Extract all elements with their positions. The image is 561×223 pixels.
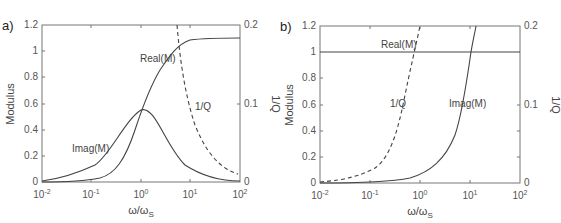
y-tick-right: 0.2: [524, 20, 538, 31]
annotation-imag-m: Imag(M): [72, 143, 109, 154]
figure: a) 0 0.2 0.4 0.6 0.8 1 1.2 0 0.1 0.2 Mod…: [0, 0, 561, 223]
annotation-real-m: Real(M): [140, 53, 176, 64]
y-axis-label-right: 1/Q: [550, 96, 561, 114]
x-tick: 100: [412, 189, 427, 201]
y-tick: 0.2: [302, 151, 316, 162]
annotation-inverse-q: 1/Q: [390, 98, 406, 109]
annotation-inverse-q: 1/Q: [195, 101, 211, 112]
y-tick-right: 0.1: [524, 99, 538, 110]
y-tick: 0.4: [24, 124, 38, 135]
y-tick: 0: [310, 177, 316, 188]
x-tick: 102: [232, 188, 247, 200]
y-tick: 0.8: [24, 71, 38, 82]
panel-label: a): [2, 18, 14, 33]
y-tick: 1: [310, 46, 316, 57]
y-tick: 0.6: [302, 99, 316, 110]
panel-a: a) 0 0.2 0.4 0.6 0.8 1 1.2 0 0.1 0.2 Mod…: [2, 18, 282, 219]
inverse-q-curve: [177, 25, 238, 174]
y-tick: 1.2: [302, 20, 316, 31]
panel-label: b): [280, 19, 292, 34]
y-axis-label-right: 1/Q: [270, 95, 282, 113]
y-tick: 1.2: [24, 19, 38, 30]
y-tick: 0.6: [24, 98, 38, 109]
y-tick-right: 0.2: [244, 19, 258, 30]
y-tick: 1: [32, 45, 38, 56]
y-tick: 0.2: [24, 150, 38, 161]
annotation-real-m: Real(M): [381, 39, 417, 50]
annotation-imag-m: Imag(M): [449, 98, 486, 109]
x-tick: 101: [182, 188, 197, 200]
x-tick: 10-2: [311, 189, 328, 201]
y-tick-right: 0: [524, 177, 530, 188]
y-axis-label: Modulus: [283, 84, 295, 126]
x-tick: 101: [462, 189, 477, 201]
y-tick: 0.4: [302, 125, 316, 136]
x-tick: 100: [133, 188, 148, 200]
x-axis-label: ω/ωS: [128, 204, 154, 219]
x-axis-label: ω/ωS: [407, 205, 433, 220]
x-tick: 10-1: [361, 189, 378, 201]
x-tick: 102: [512, 189, 527, 201]
y-tick-right: 0.1: [244, 98, 258, 109]
y-tick: 0: [32, 176, 38, 187]
x-tick: 10-2: [33, 188, 50, 200]
y-tick-right: 0: [244, 176, 250, 187]
plot-frame: [320, 26, 520, 183]
x-tick: 10-1: [82, 188, 99, 200]
y-axis-label: Modulus: [4, 83, 16, 125]
panel-b: b) 0 0.2 0.4 0.6 0.8 1 1.2 0 0.1 0.2 Mod…: [280, 19, 561, 220]
y-tick: 0.8: [302, 72, 316, 83]
